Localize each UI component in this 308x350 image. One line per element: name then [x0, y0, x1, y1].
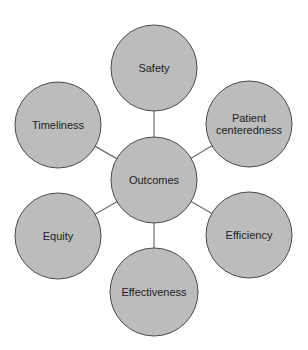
hub-label: Outcomes: [129, 174, 180, 186]
node-safety: Safety: [111, 25, 197, 111]
node-patient-centeredness: Patientcenteredness: [206, 81, 292, 167]
efficiency-label: Efficiency: [226, 229, 273, 241]
outcomes-diagram: SafetyPatientcenterednessEfficiencyEffec…: [0, 0, 308, 350]
hub-node-outcomes: Outcomes: [111, 137, 197, 223]
patient-centeredness-label: Patient: [232, 112, 266, 124]
node-effectiveness: Effectiveness: [110, 248, 198, 336]
patient-centeredness-label: centeredness: [216, 124, 283, 136]
connector-efficiency: [191, 202, 212, 214]
equity-label: Equity: [43, 230, 74, 242]
node-equity: Equity: [15, 193, 101, 279]
timeliness-label: Timeliness: [32, 119, 85, 131]
connector-timeliness: [95, 146, 116, 158]
connector-equity: [95, 202, 117, 215]
node-timeliness: Timeliness: [15, 82, 101, 168]
node-efficiency: Efficiency: [206, 192, 292, 278]
safety-label: Safety: [138, 62, 170, 74]
effectiveness-label: Effectiveness: [121, 286, 187, 298]
connector-patient-centeredness: [191, 146, 212, 158]
